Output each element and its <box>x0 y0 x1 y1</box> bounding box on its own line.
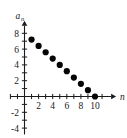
data-point <box>36 43 42 49</box>
y-tick-label: -2 <box>11 108 19 118</box>
y-tick-label: 2 <box>14 76 19 86</box>
sequence-scatter-figure: 2468108642-2-4nan <box>0 0 127 138</box>
y-tick-label: 4 <box>14 60 19 70</box>
y-tick-label: -4 <box>11 124 19 134</box>
data-point <box>43 49 49 55</box>
x-axis-arrow-icon <box>111 94 116 100</box>
y-tick-label: 8 <box>14 29 19 39</box>
data-point <box>64 68 70 74</box>
x-tick-label: 8 <box>79 101 84 111</box>
x-tick-label: 10 <box>90 101 100 111</box>
y-tick-label: 6 <box>14 45 19 55</box>
y-axis-label: a <box>16 11 21 21</box>
scatter-plot-canvas: 2468108642-2-4nan <box>0 0 127 138</box>
data-point <box>85 87 91 93</box>
data-point <box>50 55 56 61</box>
data-point <box>28 37 34 43</box>
x-tick-label: 4 <box>50 101 55 111</box>
data-point <box>78 81 84 87</box>
data-point <box>92 93 98 99</box>
x-axis-label: n <box>120 92 125 102</box>
data-point <box>71 74 77 80</box>
data-point <box>57 62 63 68</box>
y-axis-label-subscript: n <box>21 15 24 22</box>
x-tick-label: 6 <box>64 101 69 111</box>
x-tick-label: 2 <box>36 101 41 111</box>
